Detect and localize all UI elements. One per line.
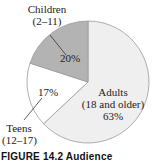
adults-label: Adults (18 and older) 63% xyxy=(80,86,146,122)
children-percent: 20% xyxy=(55,52,85,64)
children-range: (2–11) xyxy=(20,15,74,27)
teens-name: Teens xyxy=(2,122,36,134)
adults-name: Adults xyxy=(80,86,146,98)
teens-label: Teens (12–17) xyxy=(2,122,36,146)
pie-slices xyxy=(27,21,149,143)
figure-caption: FIGURE 14.2 Audience xyxy=(1,151,112,161)
children-name: Children xyxy=(20,3,74,15)
teens-range: (12–17) xyxy=(2,134,36,146)
children-label: Children (2–11) xyxy=(20,3,74,27)
adults-range: (18 and older) xyxy=(80,98,146,110)
adults-percent: 63% xyxy=(80,110,146,122)
teens-percent: 17% xyxy=(34,86,62,98)
